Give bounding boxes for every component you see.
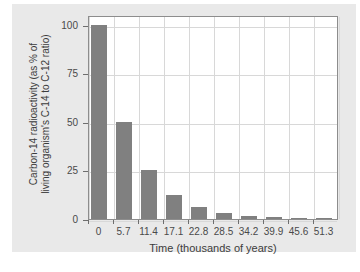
x-axis-tick-label: 51.3: [314, 226, 333, 238]
x-axis-tick-label: 22.8: [189, 226, 208, 238]
y-axis-title-line-2: living organism's C-14 to C-12 ratio): [40, 12, 52, 216]
x-axis-tick-label: 5.7: [117, 226, 131, 238]
x-axis-tick-label: 28.5: [214, 226, 233, 238]
bar: [116, 122, 132, 219]
x-axis-tick-label: 34.2: [239, 226, 258, 238]
x-axis-tick-marks: [88, 220, 338, 225]
x-axis-tick-mark: [263, 220, 264, 224]
y-axis-tick-labels: 0255075100: [54, 16, 78, 220]
y-axis-title: Carbon-14 radioactivity (as % of living …: [28, 12, 52, 216]
y-axis-tick-label: 75: [67, 69, 78, 79]
bar-series: [89, 17, 337, 219]
bar: [266, 217, 282, 219]
plot-inner: [89, 17, 337, 219]
y-axis-tick-label: 50: [67, 118, 78, 128]
x-axis-tick-mark: [288, 220, 289, 224]
bar: [291, 218, 307, 219]
x-axis-tick-label: 11.4: [139, 226, 158, 238]
x-axis-tick-label: 39.9: [264, 226, 283, 238]
bar: [216, 213, 232, 219]
bar: [191, 207, 207, 219]
bar: [316, 218, 332, 219]
carbon-14-decay-chart-figure: 0255075100 Carbon-14 radioactivity (as %…: [0, 0, 360, 272]
x-axis-tick-mark: [313, 220, 314, 224]
bar: [91, 25, 107, 219]
x-axis-tick-label: 0: [96, 226, 102, 238]
gridline-vertical: [339, 17, 340, 219]
x-axis-tick-mark: [238, 220, 239, 224]
y-axis-tick-label: 25: [67, 166, 78, 176]
x-axis-tick-mark: [113, 220, 114, 224]
x-axis-tick-mark: [163, 220, 164, 224]
bar: [141, 170, 157, 219]
y-axis-tick-label: 0: [72, 215, 78, 225]
x-axis-tick-label: 17.1: [164, 226, 183, 238]
bar: [241, 216, 257, 219]
x-axis-tick-mark: [213, 220, 214, 224]
x-axis-tick-labels: 05.711.417.122.828.534.239.945.651.3: [88, 226, 338, 240]
x-axis-tick-mark: [188, 220, 189, 224]
y-axis-tick-label: 100: [61, 21, 78, 31]
x-axis-title: Time (thousands of years): [88, 242, 338, 254]
plot-area: [88, 16, 338, 220]
x-axis-tick-label: 45.6: [289, 226, 308, 238]
y-axis-title-line-1: Carbon-14 radioactivity (as % of: [28, 12, 40, 216]
bar: [166, 195, 182, 219]
x-axis-tick-mark: [138, 220, 139, 224]
x-axis-tick-mark: [88, 220, 89, 224]
